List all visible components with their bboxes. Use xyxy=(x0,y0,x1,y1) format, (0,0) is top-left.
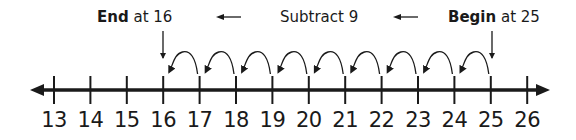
tick-label: 16 xyxy=(150,108,176,132)
direction-left-arrow-icon xyxy=(216,14,241,20)
tick-label: 17 xyxy=(187,108,213,132)
jump-arc-arrow-icon xyxy=(315,52,343,74)
jump-arc-arrow-icon xyxy=(460,52,488,74)
tick-label: 20 xyxy=(296,108,322,132)
tick-label: 19 xyxy=(260,108,286,132)
axis-left-arrow-icon xyxy=(30,84,44,96)
tick-label: 25 xyxy=(478,108,504,132)
jump-arc-arrow-icon xyxy=(424,52,452,74)
number-line-diagram: End at 16 Subtract 9 Begin at 25 1314151… xyxy=(0,0,576,140)
jump-arc-arrow-icon xyxy=(169,52,197,74)
begin-label-bold: Begin xyxy=(448,8,496,26)
tick-label: 15 xyxy=(114,108,140,132)
tick-label: 21 xyxy=(332,108,358,132)
tick-label: 23 xyxy=(405,108,431,132)
tick-label: 13 xyxy=(41,108,67,132)
jump-arc-arrow-icon xyxy=(278,52,306,74)
tick-label: 26 xyxy=(514,108,540,132)
end-label: End at 16 xyxy=(97,8,172,26)
tick-label: 18 xyxy=(223,108,249,132)
axis-right-arrow-icon xyxy=(536,84,550,96)
jump-arc-arrow-icon xyxy=(206,52,234,74)
tick-label: 14 xyxy=(78,108,104,132)
end-label-bold: End xyxy=(97,8,129,26)
tick-label: 22 xyxy=(369,108,395,132)
axis-line xyxy=(30,84,550,96)
jump-arcs xyxy=(169,52,489,74)
end-label-rest: at 16 xyxy=(129,8,173,26)
operation-title: Subtract 9 xyxy=(280,8,358,26)
jump-arc-arrow-icon xyxy=(242,52,270,74)
begin-label: Begin at 25 xyxy=(448,8,540,26)
jump-arc-arrow-icon xyxy=(351,52,379,74)
begin-label-rest: at 25 xyxy=(496,8,540,26)
direction-left-arrow-icon xyxy=(393,14,418,20)
jump-arc-arrow-icon xyxy=(388,52,416,74)
tick-label: 24 xyxy=(442,108,468,132)
